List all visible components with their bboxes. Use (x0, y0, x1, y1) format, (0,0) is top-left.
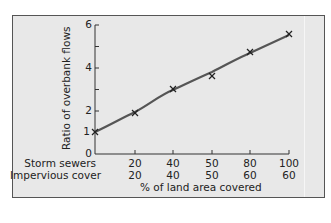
impervious-60a: 60 (235, 169, 265, 181)
storm-sewers-50: 50 (197, 157, 227, 169)
row-label-impervious-cover: Impervious cover (10, 169, 96, 181)
y-tick-6: 6 (78, 18, 92, 30)
y-tick-4: 4 (78, 61, 92, 73)
row-label-storm-sewers: Storm sewers (18, 157, 96, 169)
impervious-50: 50 (197, 169, 227, 181)
impervious-40: 40 (158, 169, 188, 181)
y-tick-2: 2 (78, 104, 92, 116)
storm-sewers-100: 100 (274, 157, 304, 169)
axes (95, 25, 289, 154)
y-axis-label: Ratio of overbank flows (60, 27, 72, 150)
storm-sewers-20: 20 (120, 157, 150, 169)
marker-50 (209, 73, 215, 79)
storm-sewers-80: 80 (235, 157, 265, 169)
impervious-60b: 60 (274, 169, 304, 181)
y-tick-1: 1 (76, 125, 90, 137)
impervious-20: 20 (120, 169, 150, 181)
fitted-curve (95, 35, 289, 132)
storm-sewers-40: 40 (158, 157, 188, 169)
x-axis-label: % of land area covered (140, 181, 262, 193)
